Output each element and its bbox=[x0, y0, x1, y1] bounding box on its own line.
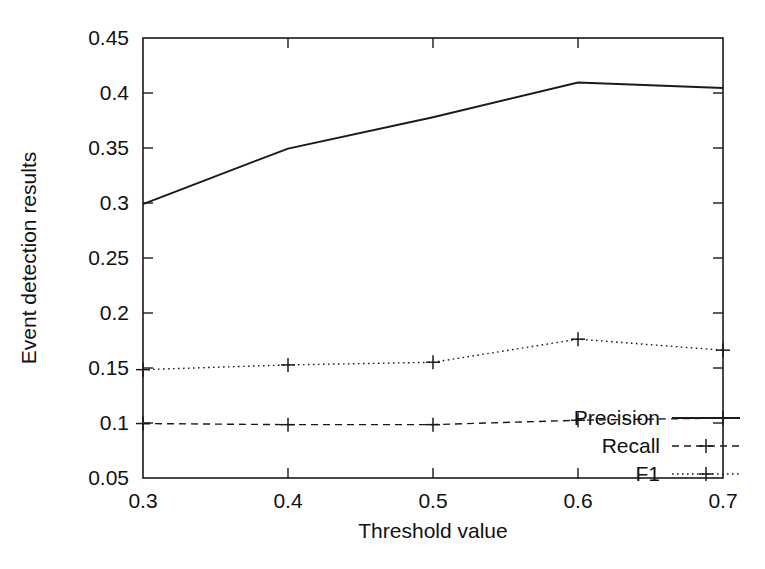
x-tick-label: 0.7 bbox=[708, 489, 737, 512]
y-tick-label: 0.1 bbox=[100, 411, 129, 434]
x-tick-label: 0.6 bbox=[563, 489, 592, 512]
data-point-marker bbox=[136, 417, 150, 431]
data-point-marker bbox=[426, 355, 440, 369]
x-tick-label: 0.3 bbox=[128, 489, 157, 512]
data-point-marker bbox=[136, 363, 150, 377]
x-tick-label: 0.4 bbox=[273, 489, 303, 512]
data-point-marker bbox=[281, 358, 295, 372]
data-point-marker bbox=[571, 332, 585, 346]
legend-label: Recall bbox=[602, 434, 660, 457]
y-tick-label: 0.45 bbox=[88, 26, 129, 49]
y-axis-tick-labels: 0.050.10.150.20.250.30.350.40.45 bbox=[88, 26, 129, 489]
y-tick-label: 0.05 bbox=[88, 466, 129, 489]
y-tick-label: 0.25 bbox=[88, 246, 129, 269]
series-precision bbox=[143, 83, 723, 205]
series-f1 bbox=[136, 332, 730, 376]
x-tick-label: 0.5 bbox=[418, 489, 447, 512]
legend-entry-recall: Recall bbox=[602, 434, 740, 457]
x-axis-ticks bbox=[288, 38, 578, 478]
line-chart: 0.30.40.50.60.7 0.050.10.150.20.250.30.3… bbox=[0, 0, 765, 569]
y-tick-label: 0.15 bbox=[88, 356, 129, 379]
chart-container: 0.30.40.50.60.7 0.050.10.150.20.250.30.3… bbox=[0, 0, 765, 569]
series-layer bbox=[136, 83, 730, 432]
series-line bbox=[143, 83, 723, 205]
y-axis-ticks bbox=[143, 93, 723, 423]
chart-legend: PrecisionRecallF1 bbox=[574, 406, 740, 485]
data-point-marker bbox=[426, 418, 440, 432]
legend-label: F1 bbox=[635, 462, 660, 485]
data-point-marker bbox=[281, 418, 295, 432]
legend-label: Precision bbox=[574, 406, 660, 429]
y-axis-title: Event detection results bbox=[17, 152, 40, 364]
y-tick-label: 0.2 bbox=[100, 301, 129, 324]
y-tick-label: 0.4 bbox=[100, 81, 130, 104]
x-axis-tick-labels: 0.30.40.50.60.7 bbox=[128, 489, 737, 512]
y-tick-label: 0.3 bbox=[100, 191, 129, 214]
legend-entry-f1: F1 bbox=[635, 462, 740, 485]
x-axis-title: Threshold value bbox=[358, 519, 507, 542]
y-tick-label: 0.35 bbox=[88, 136, 129, 159]
legend-entry-precision: Precision bbox=[574, 406, 740, 429]
data-point-marker bbox=[716, 343, 730, 357]
